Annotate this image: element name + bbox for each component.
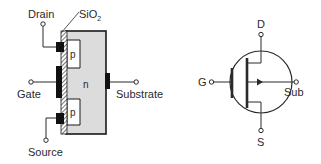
- mosfet-diagram: p n p Drain SiO2 Gate Substrate: [0, 0, 321, 164]
- drain-terminal-circle: [41, 22, 45, 26]
- cross-section: p n p Drain SiO2 Gate Substrate: [17, 8, 163, 158]
- source-contact: [56, 113, 64, 124]
- symbol-drain-label: D: [257, 18, 265, 30]
- n-label: n: [83, 79, 89, 90]
- symbol-substrate-label: Sub: [284, 86, 304, 98]
- gate-label: Gate: [17, 88, 41, 100]
- substrate-terminal: Substrate: [110, 80, 163, 100]
- source-terminal-circle: [44, 138, 48, 142]
- source-label: Source: [28, 146, 63, 158]
- symbol-drain-terminal-circle: [259, 32, 263, 36]
- symbol-gate-label: G: [198, 76, 207, 88]
- symbol-source-label: S: [257, 136, 264, 148]
- sio2-annotation: SiO2: [62, 8, 101, 32]
- substrate-terminal-circle: [134, 80, 138, 84]
- drain-label: Drain: [28, 8, 54, 20]
- p-label-top: p: [70, 49, 76, 60]
- gate-terminal-circle: [29, 80, 33, 84]
- p-label-bottom: p: [70, 107, 76, 118]
- symbol-gate-terminal-circle: [209, 80, 213, 84]
- sio2-label: SiO2: [79, 8, 101, 22]
- substrate-contact: [105, 73, 110, 89]
- symbol-drain-lead: [247, 37, 261, 63]
- drain-contact: [56, 42, 64, 52]
- mosfet-symbol: [209, 32, 298, 132]
- symbol-source-terminal-circle: [259, 128, 263, 132]
- symbol-substrate-terminal-circle: [294, 80, 298, 84]
- gate-terminal: Gate: [17, 80, 56, 100]
- substrate-label: Substrate: [116, 88, 163, 100]
- drain-lead: [43, 27, 56, 48]
- substrate-arrow-icon: [257, 79, 263, 86]
- drain-terminal: Drain: [28, 8, 56, 47]
- gate-metal: [56, 66, 62, 98]
- symbol-source-lead: [247, 102, 261, 128]
- source-lead: [46, 118, 56, 138]
- sio2-leader-line: [62, 12, 79, 32]
